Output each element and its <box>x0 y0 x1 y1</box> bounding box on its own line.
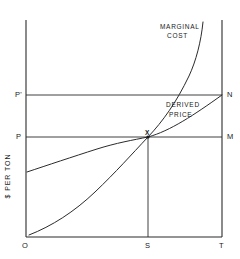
marginal-cost-label-line1: MARGINAL <box>160 22 200 31</box>
chart-canvas <box>0 0 240 259</box>
right-label-m: M <box>227 132 234 141</box>
economics-chart: $ PER TON P' P N M O S T MARGINAL COST D… <box>0 0 240 259</box>
y-axis-title-wrapper: $ PER TON <box>3 141 15 211</box>
x-tick-label-s: S <box>145 241 150 250</box>
marginal-cost-curve <box>29 22 203 235</box>
y-tick-label-p: P <box>16 132 21 141</box>
y-tick-label-p-prime: P' <box>15 90 22 99</box>
derived-price-label-line1: DERIVED <box>166 100 200 109</box>
derived-price-label-line2: PRICE <box>169 110 192 119</box>
right-label-n: N <box>227 90 233 99</box>
marginal-cost-label-line2: COST <box>167 31 188 40</box>
x-tick-label-t: T <box>219 241 224 250</box>
x-tick-label-origin: O <box>22 241 28 250</box>
intersection-point-label: X <box>145 128 150 137</box>
y-axis-title: $ PER TON <box>3 141 12 211</box>
